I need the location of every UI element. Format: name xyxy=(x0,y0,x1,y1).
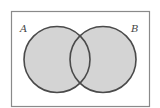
venn-svg xyxy=(0,0,160,108)
venn-diagram: A B xyxy=(0,0,160,108)
set-a-label: A xyxy=(20,24,27,34)
set-b-label: B xyxy=(131,24,138,34)
